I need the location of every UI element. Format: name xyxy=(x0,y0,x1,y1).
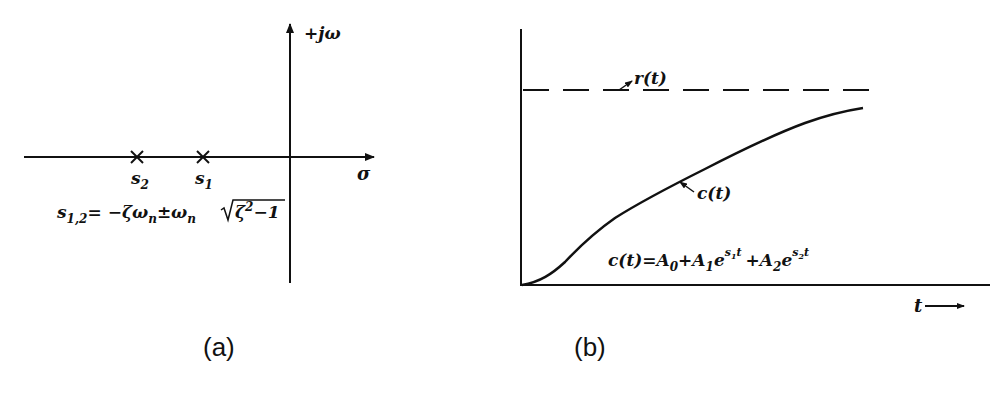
time-axis-label: t xyxy=(914,295,923,316)
caption-a: (a) xyxy=(203,332,235,363)
real-axis-label: σ xyxy=(357,163,371,184)
reference-pointer xyxy=(619,81,632,90)
figure-canvas: +jω σ s2 s1 s1,2= −ζωn±ωn ζ2−1 xyxy=(0,0,1006,395)
pole-s2-label: s2 xyxy=(130,168,149,192)
panel-b-step-response: r(t) c(t) c(t)=A0+A1es1t+A2es2t t xyxy=(520,29,990,316)
reference-label: r(t) xyxy=(634,68,667,88)
response-formula: c(t)=A0+A1es1t+A2es2t xyxy=(608,246,809,274)
pole-s1-label: s1 xyxy=(194,168,213,192)
response-pointer xyxy=(680,182,694,192)
response-label: c(t) xyxy=(697,183,731,203)
imaginary-axis-label: +jω xyxy=(304,23,341,43)
caption-b: (b) xyxy=(574,332,606,363)
pole-formula: s1,2= −ζωn±ωn xyxy=(56,202,196,226)
panel-a-s-plane: +jω σ s2 s1 s1,2= −ζωn±ωn ζ2−1 xyxy=(24,23,374,283)
sqrt-content: ζ2−1 xyxy=(235,200,280,222)
